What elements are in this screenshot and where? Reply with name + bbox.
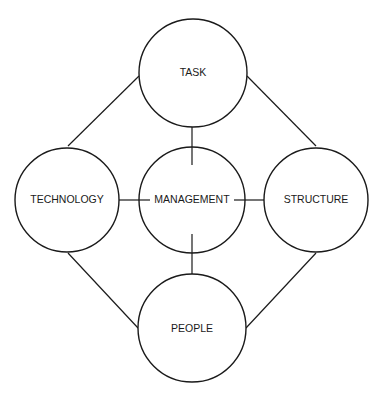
edge-technology-people <box>68 253 138 328</box>
edge-task-technology <box>68 76 139 146</box>
edge-task-structure <box>247 76 316 146</box>
node-people-label: PEOPLE <box>171 322 213 334</box>
node-management-label: MANAGEMENT <box>154 193 230 205</box>
diagram-canvas: TASK TECHNOLOGY MANAGEMENT STRUCTURE PEO… <box>0 0 381 396</box>
node-task-label: TASK <box>180 66 207 78</box>
edge-structure-people <box>246 253 316 328</box>
node-technology-label: TECHNOLOGY <box>30 193 104 205</box>
node-structure-label: STRUCTURE <box>284 193 349 205</box>
